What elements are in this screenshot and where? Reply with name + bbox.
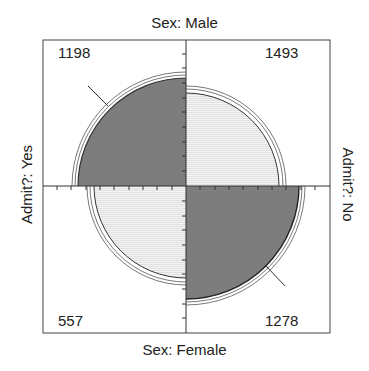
top-label: Sex: Male (0, 14, 369, 31)
right-label: Admit?: No (340, 135, 357, 235)
fourfold-plot (0, 0, 369, 371)
count-top-left: 1198 (58, 44, 90, 61)
count-bottom-left: 557 (58, 312, 83, 329)
bottom-label: Sex: Female (0, 341, 369, 358)
left-label: Admit?: Yes (18, 135, 35, 235)
count-top-right: 1493 (265, 44, 298, 61)
count-bottom-right: 1278 (265, 312, 298, 329)
